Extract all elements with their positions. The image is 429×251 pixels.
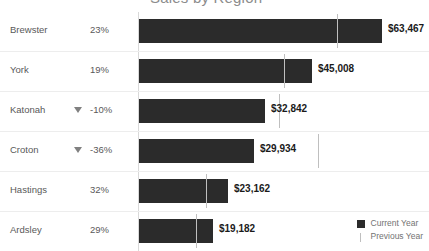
current-year-bar[interactable]	[139, 99, 265, 123]
previous-year-marker	[318, 134, 319, 168]
previous-year-marker	[337, 14, 338, 48]
current-year-bar[interactable]	[139, 179, 228, 203]
previous-year-marker	[284, 54, 285, 88]
row-category-label: Brewster	[10, 24, 47, 35]
previous-year-marker	[206, 174, 207, 208]
chart-row[interactable]: Hastings32%$23,162	[0, 172, 429, 212]
bar-chart: Sales by Region Brewster23%$63,467York19…	[0, 0, 429, 251]
previous-year-marker	[196, 214, 197, 248]
current-year-bar[interactable]	[139, 59, 312, 83]
row-bar-area: $29,934	[139, 132, 429, 171]
current-year-bar[interactable]	[139, 219, 213, 243]
page-title: Sales by Region	[150, 0, 262, 6]
triangle-down-icon	[74, 107, 82, 113]
row-bar-area: $23,162	[139, 172, 429, 211]
chart-row[interactable]: Croton-36%$29,934	[0, 132, 429, 172]
chart-row[interactable]: Katonah-10%$32,842	[0, 92, 429, 132]
row-percent-change: 32%	[90, 184, 130, 195]
bar-value-label: $32,842	[271, 103, 307, 114]
current-year-bar[interactable]	[139, 139, 254, 163]
row-percent-change: 19%	[90, 64, 130, 75]
bar-value-label: $63,467	[388, 23, 424, 34]
row-category-label: York	[10, 64, 29, 75]
legend-label-previous-year: Previous Year	[371, 230, 423, 243]
bar-value-label: $29,934	[260, 143, 296, 154]
chart-title-strip: Sales by Region	[0, 0, 429, 12]
bar-value-label: $23,162	[234, 183, 270, 194]
row-bar-area: $32,842	[139, 92, 429, 131]
bar-value-label: $19,182	[219, 223, 255, 234]
current-year-bar[interactable]	[139, 19, 382, 43]
bar-value-label: $45,008	[318, 63, 354, 74]
chart-row[interactable]: Brewster23%$63,467	[0, 12, 429, 52]
row-percent-change: 29%	[90, 224, 130, 235]
triangle-down-icon	[74, 147, 82, 153]
legend-item-previous-year[interactable]: Previous Year	[357, 230, 423, 243]
row-percent-change: -10%	[90, 104, 130, 115]
legend-line-icon	[357, 233, 365, 241]
row-percent-change: -36%	[90, 144, 130, 155]
row-percent-change: 23%	[90, 24, 130, 35]
row-category-label: Hastings	[10, 184, 47, 195]
legend-label-current-year: Current Year	[371, 217, 419, 230]
row-category-label: Croton	[10, 144, 39, 155]
row-bar-area: $63,467	[139, 12, 429, 51]
chart-rows: Brewster23%$63,467York19%$45,008Katonah-…	[0, 12, 429, 251]
legend-square-icon	[357, 220, 365, 228]
row-bar-area: $45,008	[139, 52, 429, 91]
chart-row[interactable]: York19%$45,008	[0, 52, 429, 92]
row-category-label: Ardsley	[10, 224, 42, 235]
legend-item-current-year[interactable]: Current Year	[357, 217, 423, 230]
chart-legend: Current Year Previous Year	[357, 217, 423, 243]
row-category-label: Katonah	[10, 104, 45, 115]
